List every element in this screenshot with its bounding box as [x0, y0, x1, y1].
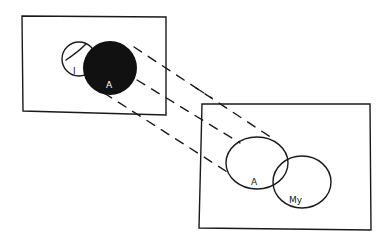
right-panel-frame: [199, 104, 371, 230]
label-my: My: [289, 195, 303, 205]
label-a-filled: A: [106, 80, 113, 90]
label-i: I: [73, 66, 76, 76]
diagram-canvas: I A A My: [0, 0, 392, 244]
label-a-right: A: [251, 177, 258, 187]
